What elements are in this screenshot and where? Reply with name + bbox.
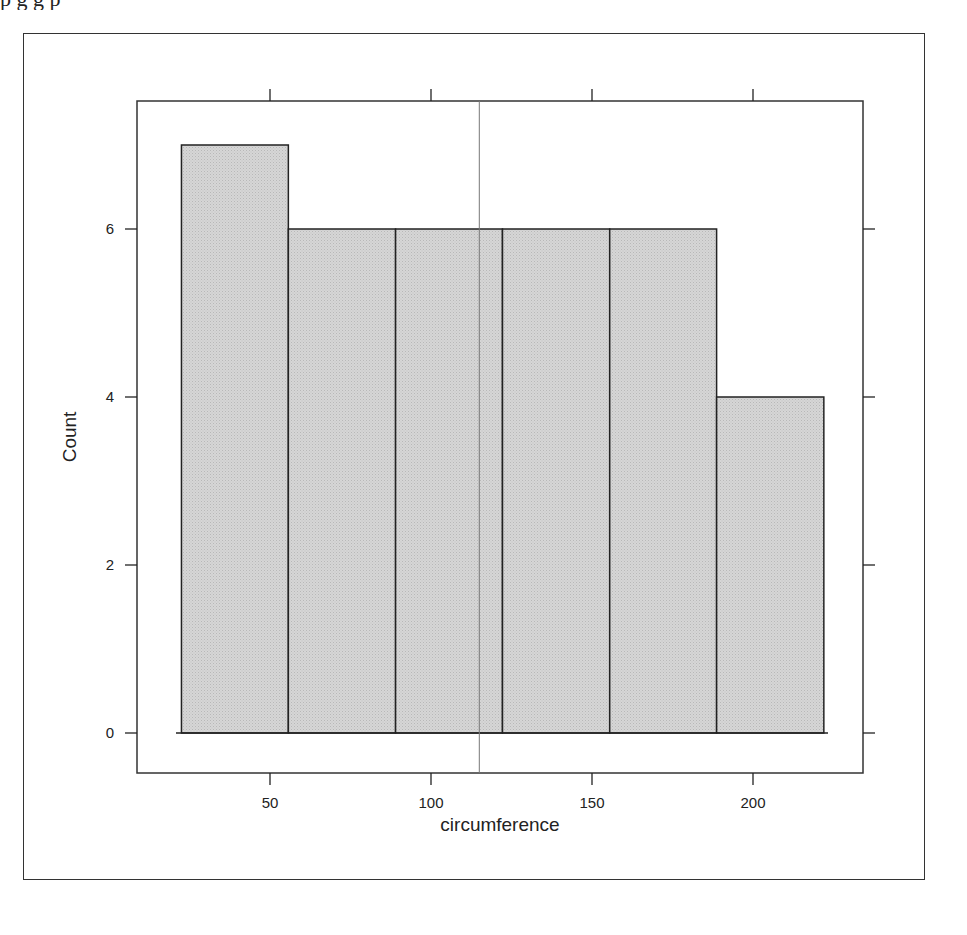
histogram-bar	[717, 397, 824, 733]
y-tick-label: 2	[106, 556, 114, 573]
x-axis-title: circumference	[440, 814, 559, 835]
x-tick-label: 50	[262, 794, 279, 811]
y-tick-label: 0	[106, 724, 114, 741]
histogram-bar	[396, 229, 503, 733]
x-tick-label: 100	[418, 794, 443, 811]
x-tick-label: 200	[740, 794, 765, 811]
histogram-bar	[288, 229, 395, 733]
y-tick-label: 4	[106, 388, 114, 405]
y-axis-title: Count	[59, 411, 80, 462]
histogram-bar	[502, 229, 609, 733]
histogram-bar	[610, 229, 717, 733]
histogram-bar	[181, 145, 288, 733]
y-tick-label: 6	[106, 220, 114, 237]
x-tick-label: 150	[579, 794, 604, 811]
histogram-chart: 50100150200 0246 circumference Count	[0, 0, 967, 935]
